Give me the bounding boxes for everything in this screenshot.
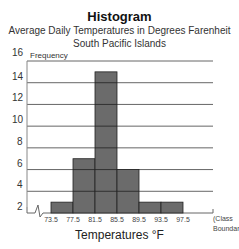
histogram-bar <box>139 202 161 213</box>
histogram-bar <box>51 202 73 213</box>
y-tick-label: 6 <box>17 158 23 169</box>
class-boundaries-line1: (Class <box>213 214 239 224</box>
histogram-bar <box>95 72 117 213</box>
x-tick-label: 77.5 <box>66 216 80 223</box>
y-tick-label: 4 <box>17 179 23 190</box>
x-tick-label: 85.5 <box>110 216 124 223</box>
y-tick-label: 8 <box>17 136 23 147</box>
histogram-bar <box>161 202 183 213</box>
x-tick-label: 93.5 <box>154 216 168 223</box>
y-tick-label: 12 <box>12 92 24 103</box>
class-boundaries-line2: Boundaries) <box>213 224 239 234</box>
x-tick-label: 97.5 <box>176 216 190 223</box>
histogram-plot: 24681012141673.577.581.585.589.593.597.5 <box>0 0 239 249</box>
x-tick-label: 73.5 <box>44 216 58 223</box>
class-boundaries-note: (Class Boundaries) <box>213 214 239 234</box>
y-tick-label: 2 <box>17 201 23 212</box>
y-tick-label: 14 <box>12 71 24 82</box>
y-tick-label: 16 <box>12 47 24 58</box>
x-tick-label: 81.5 <box>88 216 102 223</box>
x-axis-label: Temperatures °F <box>0 228 239 242</box>
x-tick-label: 89.5 <box>132 216 146 223</box>
histogram-bar <box>73 159 95 213</box>
y-tick-label: 10 <box>12 114 24 125</box>
